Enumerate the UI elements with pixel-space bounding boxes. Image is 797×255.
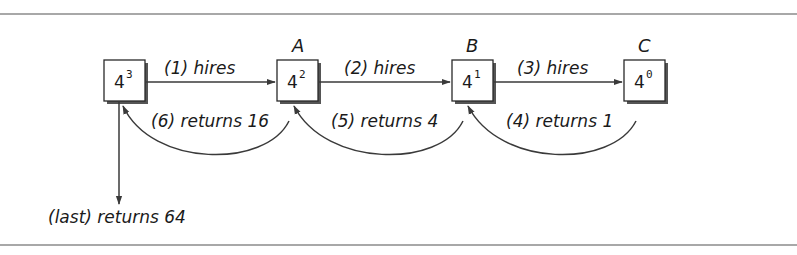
- edge-label: (2) hires: [344, 58, 415, 78]
- node-base: 4: [634, 72, 645, 92]
- recursion-diagram: 4 3 A 4 2 B 4 1 C 4 0 (1) hires (2) hire…: [0, 0, 797, 255]
- node-base: 4: [287, 72, 298, 92]
- node-label-c: C: [638, 35, 651, 56]
- node-base: 4: [462, 72, 473, 92]
- edge-returns-1: (4) returns 1: [468, 106, 636, 155]
- node-exponent: 1: [474, 68, 481, 81]
- edge-label: (1) hires: [164, 58, 235, 78]
- node-label-a: A: [291, 35, 304, 56]
- node-a: A 4 2: [277, 35, 321, 104]
- edge-label: (4) returns 1: [506, 111, 613, 131]
- edge-returns-16: (6) returns 16: [123, 106, 289, 155]
- node-4-pow-3: 4 3: [104, 60, 148, 104]
- node-exponent: 0: [646, 68, 653, 81]
- node-exponent: 3: [126, 68, 133, 81]
- edge-returns-4: (5) returns 4: [294, 106, 463, 155]
- edge-label: (last) returns 64: [48, 207, 186, 227]
- edge-label: (5) returns 4: [331, 111, 438, 131]
- node-label-b: B: [466, 35, 478, 56]
- node-exponent: 2: [299, 68, 306, 81]
- edge-label: (3) hires: [517, 58, 588, 78]
- edge-hires-2: (2) hires: [318, 58, 450, 82]
- node-base: 4: [114, 72, 125, 92]
- edge-label: (6) returns 16: [151, 111, 269, 131]
- edge-hires-1: (1) hires: [145, 58, 275, 82]
- node-c: C 4 0: [624, 35, 668, 104]
- edge-hires-3: (3) hires: [493, 58, 622, 82]
- node-b: B 4 1: [452, 35, 496, 104]
